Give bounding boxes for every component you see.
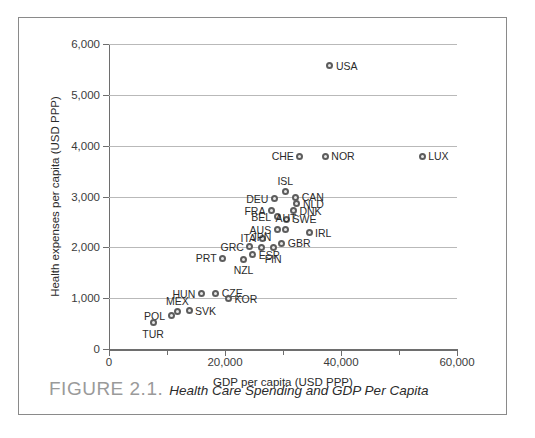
x-tick-label-0: 0 — [106, 356, 112, 368]
data-point-label-usa: USA — [336, 61, 358, 72]
x-tick-label-60000: 60,000 — [439, 356, 474, 368]
data-point-label-bel: BEL — [251, 212, 271, 223]
data-point-che[interactable] — [296, 153, 303, 160]
y-tick-label-2000: 2,000 — [71, 241, 100, 253]
data-point-label-che: CHE — [272, 151, 294, 162]
data-point-nor[interactable] — [322, 153, 329, 160]
data-point-irl[interactable] — [306, 229, 313, 236]
data-point-label-lux: LUX — [428, 151, 448, 162]
x-tick-label-20000: 20,000 — [207, 356, 242, 368]
data-point-label-svk: SVK — [195, 306, 216, 317]
data-point-label-aut: AUT — [275, 213, 296, 224]
data-point-grc[interactable] — [246, 243, 253, 250]
data-point-nzl[interactable] — [240, 256, 247, 263]
x-tick-label-40000: 40,000 — [323, 356, 358, 368]
data-point-tur[interactable] — [150, 319, 157, 326]
data-point-aut[interactable] — [282, 226, 289, 233]
y-tick-1000 — [103, 298, 109, 299]
y-tick-5000 — [103, 95, 109, 96]
x-tick-minor-10000 — [167, 350, 168, 355]
y-tick-label-1000: 1,000 — [71, 292, 100, 304]
y-tick-label-0: 0 — [94, 343, 100, 355]
data-point-usa[interactable] — [326, 62, 333, 69]
data-point-label-jpn: JPN — [252, 231, 272, 242]
data-point-esp[interactable] — [249, 251, 256, 258]
x-tick-minor-50000 — [399, 350, 400, 355]
y-axis-title: Health expenses per capita (USD PPP) — [49, 44, 61, 349]
data-point-label-grc: GRC — [221, 242, 244, 253]
data-point-label-mex: MEX — [166, 295, 189, 306]
data-point-lux[interactable] — [419, 153, 426, 160]
y-tick-6000 — [103, 44, 109, 45]
y-tick-label-3000: 3,000 — [71, 191, 100, 203]
y-tick-label-6000: 6,000 — [71, 38, 100, 50]
y-tick-3000 — [103, 197, 109, 198]
figure-number: FIGURE 2.1. — [49, 378, 163, 399]
scatter-plot-area: 01,0002,0003,0004,0005,0006,000 020,0004… — [109, 44, 457, 349]
data-point-pol[interactable] — [168, 312, 175, 319]
data-point-mex[interactable] — [174, 308, 181, 315]
data-point-aus[interactable] — [274, 226, 281, 233]
data-point-label-prt: PRT — [196, 253, 217, 264]
data-point-deu[interactable] — [271, 195, 278, 202]
gridline-y-4000 — [109, 146, 457, 147]
data-point-label-tur: TUR — [142, 329, 164, 340]
gridline-y-1000 — [109, 298, 457, 299]
gridline-y-2000 — [109, 247, 457, 248]
data-point-label-nzl: NZL — [234, 265, 254, 276]
gridline-y-3000 — [109, 197, 457, 198]
x-tick-minor-30000 — [283, 350, 284, 355]
figure-frame: Health expenses per capita (USD PPP) 01,… — [18, 17, 507, 415]
y-tick-label-5000: 5,000 — [71, 89, 100, 101]
y-tick-4000 — [103, 146, 109, 147]
data-point-hun[interactable] — [198, 290, 205, 297]
figure-caption: FIGURE 2.1.Health Care Spending and GDP … — [49, 378, 428, 400]
gridline-y-6000 — [109, 44, 457, 45]
data-point-label-gbr: GBR — [288, 238, 311, 249]
y-tick-label-4000: 4,000 — [71, 140, 100, 152]
data-point-isl[interactable] — [282, 188, 289, 195]
gridline-y-5000 — [109, 95, 457, 96]
figure-title: Health Care Spending and GDP Per Capita — [169, 383, 428, 398]
data-point-kor[interactable] — [225, 295, 232, 302]
data-point-cze[interactable] — [212, 290, 219, 297]
data-point-prt[interactable] — [219, 255, 226, 262]
y-tick-2000 — [103, 247, 109, 248]
data-point-label-nor: NOR — [331, 151, 354, 162]
data-point-gbr[interactable] — [278, 240, 285, 247]
data-point-label-esp: ESP — [259, 250, 280, 261]
data-point-label-deu: DEU — [246, 193, 268, 204]
data-point-label-kor: KOR — [234, 293, 257, 304]
data-point-svk[interactable] — [186, 307, 193, 314]
data-point-label-isl: ISL — [277, 175, 293, 186]
data-point-label-irl: IRL — [315, 227, 331, 238]
